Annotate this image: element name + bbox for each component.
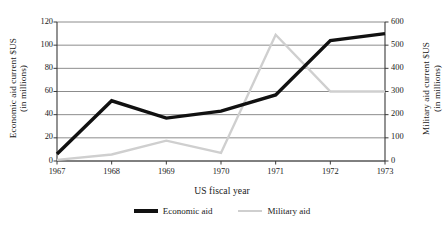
tick-marks <box>54 22 389 165</box>
legend-swatch-econ <box>134 209 158 212</box>
y-axis-tick-label-right: 400 <box>391 63 419 72</box>
legend-swatch-mil <box>238 210 262 212</box>
legend-label: Military aid <box>267 206 310 216</box>
x-axis-tick-label: 1970 <box>201 167 241 176</box>
y-axis-tick-label-right: 0 <box>391 156 419 165</box>
series-line-economic-aid <box>57 34 385 154</box>
x-axis-title: US fiscal year <box>0 186 444 197</box>
legend-item: Military aid <box>238 206 310 216</box>
x-axis-tick-label: 1967 <box>37 167 77 176</box>
left-axis-title-line1: Economic aid current $US <box>8 38 18 138</box>
x-axis-tick-label: 1972 <box>310 167 350 176</box>
y-axis-tick-label-left: 40 <box>20 109 53 118</box>
y-axis-tick-label-left: 60 <box>20 86 53 95</box>
legend-item: Economic aid <box>134 206 213 216</box>
y-axis-tick-label-left: 120 <box>20 17 53 26</box>
chart-legend: Economic aidMilitary aid <box>0 206 444 216</box>
y-axis-tick-label-right: 100 <box>391 132 419 141</box>
plot-area <box>0 0 444 236</box>
y-axis-tick-label-right: 300 <box>391 86 419 95</box>
x-axis-tick-label: 1969 <box>146 167 186 176</box>
x-axis-tick-label: 1971 <box>256 167 296 176</box>
y-axis-tick-label-left: 20 <box>20 132 53 141</box>
y-axis-tick-label-left: 100 <box>20 40 53 49</box>
y-axis-tick-label-right: 500 <box>391 40 419 49</box>
chart-figure: Economic aid current $US (in millions) M… <box>0 0 444 236</box>
y-axis-tick-label-right: 200 <box>391 109 419 118</box>
right-axis-title: Military aid current $US (in millions) <box>421 14 442 162</box>
series-line-military-aid <box>57 35 385 160</box>
y-axis-tick-label-right: 600 <box>391 17 419 26</box>
x-axis-tick-label: 1968 <box>92 167 132 176</box>
x-axis-tick-label: 1973 <box>365 167 405 176</box>
y-axis-tick-label-left: 0 <box>20 156 53 165</box>
right-axis-title-line2: (in millions) <box>432 65 442 112</box>
data-series-layer <box>57 34 385 160</box>
legend-label: Economic aid <box>163 206 213 216</box>
y-axis-tick-label-left: 80 <box>20 63 53 72</box>
right-axis-title-line1: Military aid current $US <box>421 42 431 135</box>
